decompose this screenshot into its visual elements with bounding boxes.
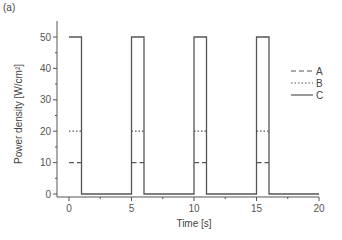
axes: 0102030405005101520 [40, 21, 325, 214]
legend-item-A: A [291, 66, 323, 77]
legend-label-C: C [316, 90, 323, 101]
y-tick-label: 10 [40, 157, 52, 168]
x-tick-label: 15 [251, 203, 263, 214]
y-tick-label: 20 [40, 126, 52, 137]
legend-item-C: C [291, 90, 323, 101]
legend-label-B: B [316, 78, 323, 89]
series-line-C [69, 37, 319, 194]
series-layer [69, 37, 319, 194]
panel-label: (a) [3, 2, 15, 13]
x-tick-label: 20 [313, 203, 325, 214]
x-tick-label: 0 [66, 203, 72, 214]
series-C [69, 37, 319, 194]
x-tick-label: 10 [188, 203, 200, 214]
x-axis-label: Time [s] [176, 218, 211, 229]
y-tick-label: 50 [40, 32, 52, 43]
legend-label-A: A [316, 66, 323, 77]
x-tick-label: 5 [129, 203, 135, 214]
chart: (a) 0102030405005101520 ABC Time [s] Pow… [0, 0, 342, 240]
y-tick-label: 0 [45, 189, 51, 200]
legend: ABC [291, 66, 323, 101]
y-tick-label: 30 [40, 94, 52, 105]
y-axis-label: Power density [W/cm²] [13, 64, 24, 164]
y-tick-label: 40 [40, 63, 52, 74]
legend-item-B: B [291, 78, 323, 89]
